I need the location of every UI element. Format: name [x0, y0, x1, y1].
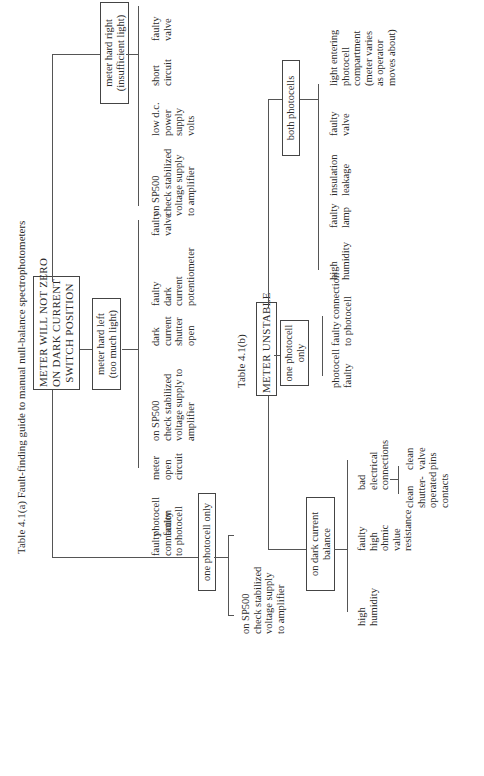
- connector: [268, 258, 269, 308]
- cause: faulty valve: [150, 17, 173, 42]
- cause: photocell faulty: [330, 349, 353, 388]
- connector: [138, 220, 139, 468]
- connector: [228, 615, 234, 616]
- cause: high humidity: [328, 242, 351, 280]
- cause: low d.c. power supply volts: [150, 102, 196, 136]
- connector: [52, 55, 53, 282]
- cause: insulation leakage: [328, 155, 351, 196]
- connector: [322, 316, 323, 376]
- cause: on SP500 check stabilized voltage supply…: [150, 149, 196, 216]
- cause: high humidity: [356, 588, 379, 626]
- cause: faulty high ohmic value resistance: [356, 510, 414, 551]
- table-b-caption: Table 4.1(b): [236, 334, 248, 388]
- connector: [318, 84, 319, 270]
- table-a-caption: Table 4.1(a) Fault-finding guide to manu…: [16, 221, 28, 554]
- table-b-root-box: METER UNSTABLE: [256, 302, 277, 396]
- cause: on SP500 check stabilized voltage supply…: [240, 567, 286, 634]
- branch-box-one-photocell-b: one photocell only: [280, 320, 309, 386]
- sub-cause: clean valve pins: [404, 447, 439, 470]
- connector: [334, 549, 347, 550]
- branch-box-hard-right: meter hard right (insufficient light): [100, 2, 129, 104]
- branch-box-one-photocell: one photocell only: [198, 493, 216, 591]
- connector: [52, 54, 100, 55]
- connector: [52, 557, 198, 558]
- sub-cause: clean shutter- operated contacts: [404, 472, 450, 508]
- connector: [268, 396, 269, 550]
- connector: [390, 479, 398, 480]
- cause: faulty valve: [328, 112, 351, 137]
- cause: light entering photocell compartment (me…: [328, 29, 397, 86]
- branch-box-hard-left: meter hard left (too much light): [92, 298, 121, 390]
- connector: [214, 557, 228, 558]
- connector: [268, 100, 269, 258]
- connector: [228, 536, 229, 616]
- table-a-root-box: METER WILL NOT ZERO ON DARK CURRENT SWIT…: [33, 276, 80, 390]
- connector: [122, 349, 138, 350]
- cause: dark current shutter open: [150, 316, 196, 346]
- connector: [52, 390, 53, 558]
- branch-box-both-photocells: both photocells: [282, 60, 300, 156]
- connector: [138, 6, 139, 206]
- connector: [80, 349, 92, 350]
- cause: faulty connection to photocell: [330, 273, 353, 346]
- rotated-page: Table 4.1(a) Fault-finding guide to manu…: [0, 0, 484, 776]
- cause: on SP500 check stabilized voltage supply…: [150, 369, 196, 441]
- connector: [347, 460, 348, 612]
- connector: [228, 535, 234, 536]
- cause: bad electrical connections: [356, 440, 391, 490]
- connector: [126, 54, 138, 55]
- cause: photocell faulty: [150, 497, 173, 536]
- branch-box-dark-current: on dark current balance: [306, 497, 335, 591]
- cause: faulty dark current potentiometer: [150, 248, 196, 306]
- cause: meter open circuit: [150, 453, 185, 480]
- connector: [300, 99, 318, 100]
- cause: faulty lamp: [328, 204, 351, 229]
- cause: short circuit: [150, 59, 173, 86]
- connector: [398, 466, 399, 494]
